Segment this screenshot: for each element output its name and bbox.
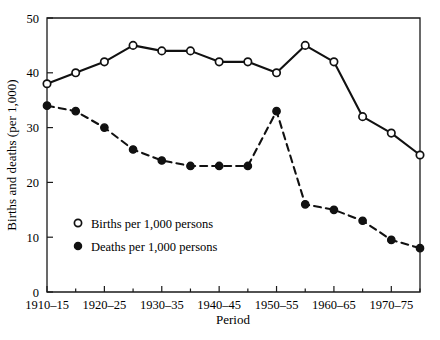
data-point-deaths — [273, 107, 280, 114]
y-axis-title: Births and deaths (per 1,000) — [4, 79, 19, 230]
data-point-deaths — [244, 162, 251, 169]
data-point-births — [244, 58, 251, 65]
data-point-deaths — [215, 162, 222, 169]
data-point-births — [43, 80, 50, 87]
data-point-births — [72, 69, 79, 76]
y-tick-label: 10 — [27, 231, 40, 245]
chart-legend: Births per 1,000 persons Deaths per 1,00… — [74, 217, 217, 254]
data-point-deaths — [359, 217, 366, 224]
x-tick-label: 1910–15 — [25, 298, 69, 312]
data-point-births — [416, 151, 423, 158]
legend-marker-births-icon — [74, 219, 81, 226]
data-point-deaths — [187, 162, 194, 169]
data-point-deaths — [302, 201, 309, 208]
x-axis-tick-labels: 1910–151920–251930–351940–451950–551960–… — [25, 298, 413, 312]
legend-label-births: Births per 1,000 persons — [91, 217, 213, 231]
x-axis-title: Period — [216, 312, 250, 327]
y-tick-label: 30 — [27, 121, 40, 135]
legend-label-deaths: Deaths per 1,000 persons — [91, 240, 217, 254]
line-chart: 01020304050 1910–151920–251930–351940–45… — [0, 0, 440, 340]
data-point-births — [215, 58, 222, 65]
y-axis-ticks — [47, 18, 53, 292]
x-tick-label: 1920–25 — [83, 298, 127, 312]
data-point-deaths — [72, 107, 79, 114]
y-tick-label: 40 — [27, 66, 40, 80]
data-point-deaths — [158, 157, 165, 164]
data-point-deaths — [416, 244, 423, 251]
legend-marker-deaths-icon — [74, 242, 81, 249]
data-point-births — [302, 42, 309, 49]
data-point-births — [330, 58, 337, 65]
data-point-deaths — [330, 206, 337, 213]
y-tick-label: 50 — [27, 12, 40, 26]
data-point-births — [187, 47, 194, 54]
data-point-deaths — [129, 146, 136, 153]
chart-figure: 01020304050 1910–151920–251930–351940–45… — [0, 0, 440, 340]
data-point-births — [273, 69, 280, 76]
series-births-markers — [43, 42, 423, 159]
x-axis-ticks — [47, 286, 391, 292]
data-point-deaths — [388, 236, 395, 243]
x-tick-label: 1940–45 — [197, 298, 241, 312]
x-tick-label: 1960–65 — [312, 298, 356, 312]
data-point-births — [129, 42, 136, 49]
y-tick-label: 20 — [27, 176, 40, 190]
x-tick-label: 1930–35 — [140, 298, 184, 312]
data-point-deaths — [43, 102, 50, 109]
data-point-births — [388, 129, 395, 136]
data-point-births — [101, 58, 108, 65]
data-point-deaths — [101, 124, 108, 131]
x-tick-label: 1970–75 — [369, 298, 413, 312]
y-axis-tick-labels: 01020304050 — [27, 12, 40, 300]
x-tick-label: 1950–55 — [255, 298, 299, 312]
data-point-births — [359, 113, 366, 120]
data-point-births — [158, 47, 165, 54]
